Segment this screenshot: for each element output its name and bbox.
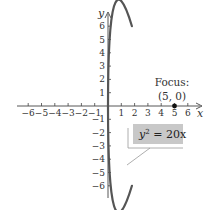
x-tick-label: 5: [172, 108, 178, 118]
y-axis-label: y: [97, 7, 105, 20]
equation-label: y2 = 20x: [127, 124, 187, 165]
y-tick-label: −1: [92, 114, 105, 124]
x-tick-label: −2: [75, 108, 88, 118]
x-tick-label: 4: [158, 108, 164, 118]
y-tick-label: −6: [92, 181, 106, 191]
x-tick-label: 2: [132, 108, 138, 118]
parabola-curve: [108, 0, 132, 210]
x-tick-label: 3: [145, 108, 151, 118]
focus-point: [172, 104, 177, 109]
x-tick-label: −5: [35, 108, 49, 118]
y-tick-label: 5: [99, 35, 105, 45]
y-tick-label: 6: [99, 21, 105, 31]
y-tick-label: 1: [99, 88, 105, 98]
y-tick-label: 4: [99, 48, 105, 58]
x-axis-label: x: [197, 107, 204, 120]
focus-title: Focus:: [155, 76, 190, 88]
y-tick-label: −2: [92, 128, 105, 138]
y-tick-label: −3: [92, 141, 106, 151]
y-tick-label: −4: [92, 154, 106, 164]
y-tick-label: 2: [99, 74, 105, 84]
y-tick-label: 3: [99, 61, 105, 71]
x-tick-label: −6: [22, 108, 36, 118]
y-tick-label: −5: [92, 168, 106, 178]
x-tick-label: 6: [185, 108, 191, 118]
x-tick-label: 1: [118, 108, 124, 118]
parabola-chart: −6 −5 −4 −3 −2 −1 1 2 3 4 5 6 1 2 3 4 5 …: [0, 0, 211, 210]
x-tick-label: −4: [48, 108, 62, 118]
equation-leader-line: [127, 148, 150, 165]
x-tick-label: −3: [61, 108, 75, 118]
x-tick-labels: −6 −5 −4 −3 −2 −1 1 2 3 4 5 6: [22, 108, 191, 118]
focus-coordinates: (5, 0): [158, 90, 186, 102]
